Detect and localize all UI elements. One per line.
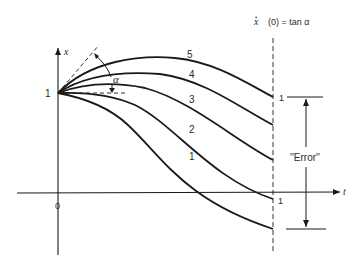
t-axis-label: t — [343, 186, 346, 197]
formula-variable: x — [253, 16, 259, 27]
target-mark-upper: 1 — [279, 93, 284, 103]
curve-label-2: 2 — [189, 124, 195, 135]
curve-2 — [58, 93, 273, 199]
curve-label-3: 3 — [189, 94, 195, 105]
curve-label-1: 1 — [189, 151, 195, 162]
curve-4 — [58, 73, 273, 125]
origin-label: 0 — [55, 201, 60, 211]
error-label: ''Error'' — [290, 152, 320, 163]
x-axis-label: x — [63, 46, 69, 57]
initial-value-label: 1 — [45, 88, 51, 99]
shooting-method-diagram: α 5 4 3 2 1 x t 0 1 • x (0) = tan α 1 1 … — [0, 0, 360, 265]
angle-arrow-head-lower — [109, 88, 115, 93]
curve-label-4: 4 — [189, 69, 195, 80]
curve-1 — [58, 93, 273, 229]
target-mark-lower: 1 — [278, 196, 283, 206]
formula-text: (0) = tan α — [268, 17, 309, 27]
t-axis — [17, 192, 340, 193]
curve-3 — [58, 84, 273, 160]
curve-5 — [58, 57, 273, 97]
curve-label-5: 5 — [187, 49, 193, 60]
